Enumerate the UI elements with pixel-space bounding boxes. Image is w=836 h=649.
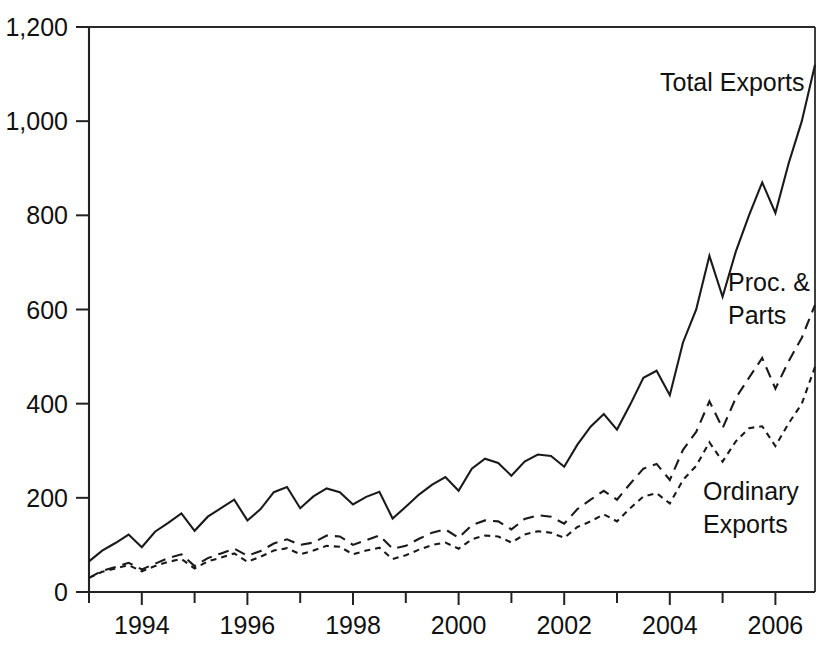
series-annotation-proc-parts: Proc. & — [728, 268, 810, 296]
y-tick-label: 1,000 — [5, 107, 68, 135]
x-tick-label: 1996 — [220, 611, 276, 639]
series-annotation-ordinary-exports: Exports — [703, 510, 788, 538]
x-tick-label: 2004 — [642, 611, 698, 639]
x-tick-label: 1998 — [325, 611, 381, 639]
series-annotation-total-exports: Total Exports — [660, 68, 805, 96]
series-annotation-proc-parts: Parts — [728, 301, 786, 329]
chart-container: 02004006008001,0001,200 1994199619982000… — [0, 0, 836, 649]
series-annotations: Total ExportsProc. &PartsOrdinaryExports — [660, 68, 810, 538]
y-tick-label: 400 — [26, 390, 68, 418]
series-line-ordinary-exports — [89, 367, 815, 578]
x-tick-label: 2006 — [748, 611, 804, 639]
y-tick-label: 1,200 — [5, 13, 68, 41]
y-tick-label: 600 — [26, 296, 68, 324]
y-tick-label: 800 — [26, 201, 68, 229]
series-annotation-ordinary-exports: Ordinary — [703, 477, 799, 505]
y-tick-label: 200 — [26, 484, 68, 512]
y-tick-label: 0 — [54, 578, 68, 606]
x-tick-label: 2002 — [536, 611, 592, 639]
x-tick-label: 2000 — [431, 611, 487, 639]
x-tick-label: 1994 — [114, 611, 170, 639]
y-axis-ticks: 02004006008001,0001,200 — [5, 13, 89, 606]
x-axis-ticks: 1994199619982000200220042006 — [89, 592, 803, 639]
plot-frame — [89, 27, 815, 592]
exports-line-chart: 02004006008001,0001,200 1994199619982000… — [0, 0, 836, 649]
